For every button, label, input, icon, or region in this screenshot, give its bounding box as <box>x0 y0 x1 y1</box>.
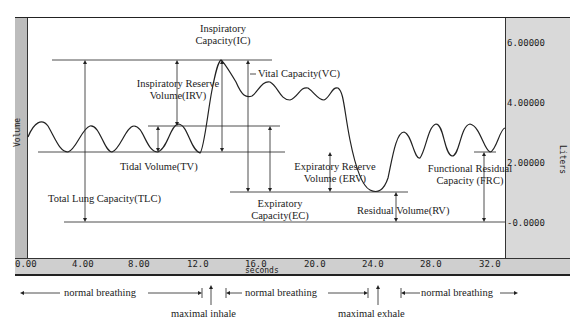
label-erv: Expiratory Reserve Volume (ERV) <box>285 161 385 185</box>
label-tv: Tidal Volume(TV) <box>120 161 198 173</box>
phase-maximal-inhale: maximal inhale <box>171 308 236 320</box>
label-irv: Inspiratory Reserve Volume(IRV) <box>122 78 234 102</box>
label-vc: Vital Capacity(VC) <box>258 68 340 80</box>
label-ic: Inspiratory Capacity(IC) <box>188 23 258 47</box>
label-rv: Residual Volume(RV) <box>357 205 449 217</box>
label-ec: Expiratory Capacity(EC) <box>240 198 320 222</box>
phase-normal-breathing-2: normal breathing <box>245 287 317 299</box>
phase-normal-breathing-3: normal breathing <box>421 287 493 299</box>
phase-maximal-exhale: maximal exhale <box>338 308 405 320</box>
label-tlc: Total Lung Capacity(TLC) <box>48 193 161 205</box>
label-frc: Functional Residual Capacity (FRC) <box>415 163 525 187</box>
phase-normal-breathing-1: normal breathing <box>64 287 136 299</box>
